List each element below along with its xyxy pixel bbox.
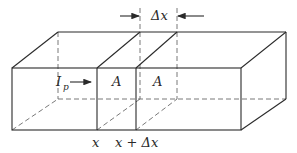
position-x-label: x bbox=[92, 135, 100, 150]
current-subscript: p bbox=[63, 82, 69, 92]
position-x-dx-label: x + Δx bbox=[115, 135, 159, 150]
current-indicator: I p bbox=[55, 74, 91, 92]
current-symbol: I bbox=[55, 74, 62, 89]
area-label-left: A bbox=[111, 74, 121, 89]
slice-width-label: Δx bbox=[150, 8, 168, 23]
area-label-right: A bbox=[152, 74, 162, 89]
hidden-edges bbox=[12, 8, 286, 130]
visible-edges bbox=[12, 32, 286, 130]
delta-x-dimension: Δx bbox=[120, 8, 204, 23]
bar-slice-diagram: Δx I p A A x x + Δx bbox=[0, 0, 297, 153]
